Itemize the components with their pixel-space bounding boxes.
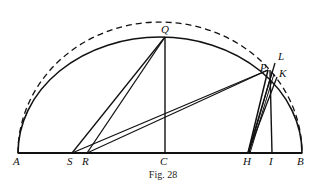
figure-container: A S R C H I B Q P L K Fig. 28 (0, 0, 326, 191)
segment-sp (72, 70, 268, 153)
point-label-s: S (67, 156, 73, 167)
point-label-q: Q (161, 24, 169, 35)
point-label-l: L (278, 51, 284, 62)
point-label-k: K (279, 68, 286, 79)
segment-hp (248, 70, 268, 153)
figure-caption: Fig. 28 (0, 170, 326, 180)
solid-ellipse-arc (18, 37, 302, 153)
point-label-r: R (82, 156, 89, 167)
point-label-p: P (260, 62, 267, 73)
segment-h-aux-1 (249, 72, 272, 153)
point-label-i: I (269, 156, 273, 167)
point-label-b: B (297, 156, 304, 167)
point-label-h: H (243, 156, 251, 167)
point-label-a: A (13, 156, 20, 167)
dashed-semicircle-arc (18, 22, 302, 153)
point-label-c: C (160, 156, 167, 167)
